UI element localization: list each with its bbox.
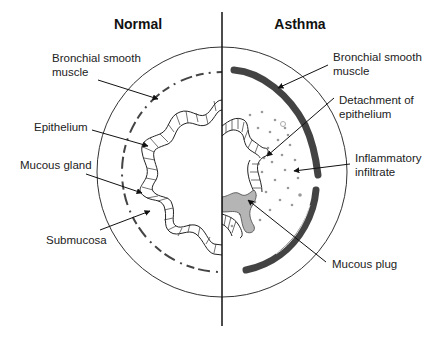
- svg-text:Inflammatory: Inflammatory: [355, 152, 422, 164]
- arrow-asthma-detachment: [267, 98, 334, 156]
- label-normal-epithelium: Epithelium: [34, 121, 88, 133]
- svg-text:muscle: muscle: [52, 66, 88, 78]
- airway-cross-section-diagram: Normal Asthma: [0, 0, 438, 337]
- label-normal-submucosa: Submucosa: [46, 234, 107, 246]
- label-asthma-inflammatory: Inflammatory infiltrate: [355, 152, 422, 178]
- label-asthma-detachment: Detachment of epithelium: [339, 94, 415, 120]
- label-asthma-mucous-plug: Mucous plug: [332, 258, 397, 270]
- arrow-asthma-inflammatory: [294, 164, 350, 171]
- arrow-asthma-smooth-muscle: [278, 65, 328, 88]
- svg-text:infiltrate: infiltrate: [355, 166, 395, 178]
- label-asthma-smooth-muscle: Bronchial smooth muscle: [333, 51, 422, 77]
- title-asthma: Asthma: [274, 16, 326, 32]
- asthma-epithelium-detached: [248, 156, 266, 196]
- normal-epithelium-inner: [152, 110, 222, 245]
- label-normal-smooth-muscle: Bronchial smooth muscle: [52, 52, 141, 78]
- arrow-normal-mucous-gland: [86, 174, 142, 193]
- svg-text:muscle: muscle: [333, 65, 369, 77]
- arrow-normal-smooth-muscle: [98, 80, 158, 99]
- asthma-smooth-muscle-lower: [246, 190, 316, 270]
- svg-text:epithelium: epithelium: [339, 108, 391, 120]
- normal-epithelium: [140, 100, 222, 255]
- svg-text:Bronchial smooth: Bronchial smooth: [52, 52, 141, 64]
- svg-text:Bronchial smooth: Bronchial smooth: [333, 51, 422, 63]
- arrow-normal-submucosa: [100, 211, 150, 230]
- svg-text:Detachment of: Detachment of: [339, 94, 415, 106]
- title-normal: Normal: [114, 16, 162, 32]
- label-normal-mucous-gland: Mucous gland: [20, 159, 92, 171]
